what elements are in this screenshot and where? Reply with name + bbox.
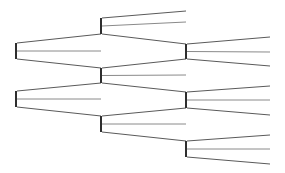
edge-lower xyxy=(102,83,186,92)
edge-middle xyxy=(102,75,186,76)
edge-upper xyxy=(17,34,101,43)
edge-lower xyxy=(187,59,270,66)
edge-upper xyxy=(187,37,270,44)
edge-lower xyxy=(187,157,270,164)
edges-group xyxy=(17,11,270,164)
edge-upper xyxy=(187,135,270,141)
edge-upper xyxy=(102,11,186,18)
tree-diagram xyxy=(0,0,285,173)
edge-upper xyxy=(102,59,186,68)
edge-upper xyxy=(17,83,101,91)
edge-lower xyxy=(17,59,101,68)
edge-middle xyxy=(187,52,270,53)
edge-upper xyxy=(102,108,186,116)
edge-lower xyxy=(17,107,101,116)
nodes-group xyxy=(16,18,186,157)
edge-middle xyxy=(102,22,186,26)
edge-lower xyxy=(102,34,186,44)
edge-lower xyxy=(102,132,186,141)
edge-lower xyxy=(187,108,270,115)
edge-upper xyxy=(187,86,270,92)
